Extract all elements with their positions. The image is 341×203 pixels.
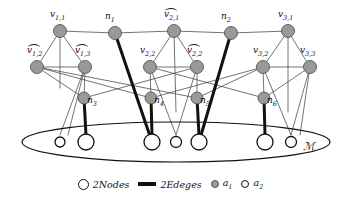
filled-circle-icon [211,180,219,188]
graph-node-m5[interactable] [191,134,207,150]
graph-node-v22[interactable] [144,61,157,74]
graph-figure: v1,1n1v2,1n2v3,1v1,2v1,3v2,2v2,2v3,2v3,3… [0,0,341,203]
node-label-n1: n1 [105,12,115,23]
graph-node-v33[interactable] [304,61,317,74]
node-label-v33: v3,3 [300,46,315,57]
node-label-v12t: v1,2 [27,46,42,57]
node-label-v32: v3,2 [253,46,268,57]
graph-edge [174,31,231,33]
graph-node-m2[interactable] [78,134,94,150]
legend-item-nodes: 2Nodes [78,179,130,190]
node-label-v13t: v1,3 [75,46,90,57]
node-label-n5: n5 [200,96,210,107]
node-label-n2: n2 [221,12,231,23]
graph-node-v11[interactable] [54,25,67,38]
legend-label-edges: 2Edeges [160,179,201,190]
open-circle-small-icon [241,180,249,188]
thick-bar-icon [138,182,156,185]
matching-set-label: ℳ [303,140,315,153]
node-label-v11: v1,1 [50,10,65,21]
graph-node-m7[interactable] [286,137,297,148]
node-label-v31: v3,1 [278,10,293,21]
graph-edge [264,67,310,98]
graph-node-v31[interactable] [282,25,295,38]
graph-node-n2[interactable] [225,27,238,40]
legend-label-a1: a1 [223,177,233,191]
graph-node-v21t[interactable] [168,25,181,38]
graph-edge [300,67,310,135]
graph-node-v12t[interactable] [31,61,44,74]
legend-label-a2: a2 [253,177,263,191]
graph-node-v13t[interactable] [79,61,92,74]
graph-node-v22t[interactable] [191,61,204,74]
matching-node-group [55,134,297,150]
graph-node-m1[interactable] [55,137,65,147]
graph-edge [115,31,174,33]
legend-item-edges: 2Edeges [138,179,201,190]
graph-edge [231,31,288,33]
node-label-n3: n3 [87,96,97,107]
node-label-n6: n6 [267,96,277,107]
legend: 2Nodes 2Edeges a1 a2 [0,170,341,198]
legend-item-a1: a1 [211,177,233,191]
legend-label-nodes: 2Nodes [93,179,130,190]
graph-edge [84,67,197,98]
graph-node-m4[interactable] [171,137,182,148]
node-label-v22: v2,2 [140,46,155,57]
graph-node-v32[interactable] [257,61,270,74]
open-circle-icon [78,179,89,190]
graph-edge [291,67,310,135]
node-label-v22t: v2,2 [187,46,202,57]
graph-node-m3[interactable] [144,134,160,150]
node-label-n4: n4 [154,96,164,107]
legend-item-a2: a2 [241,177,263,191]
graph-edge [37,67,151,98]
graph-node-n1[interactable] [109,27,122,40]
graph-edge [60,31,115,33]
graph-node-m6[interactable] [257,134,273,150]
node-label-v21t: v2,1 [164,10,179,21]
graph-edge [174,31,176,112]
